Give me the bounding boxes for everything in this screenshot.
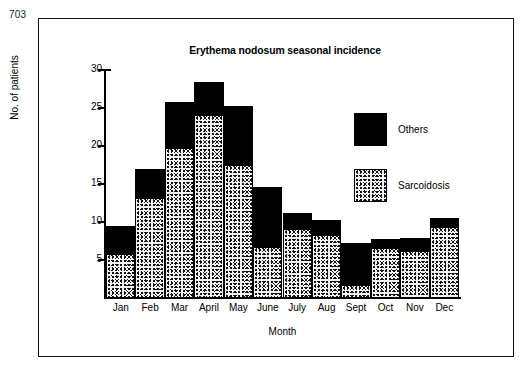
x-axis-title: Month xyxy=(106,325,459,338)
bar-segment-others xyxy=(106,226,135,254)
bar-dec[interactable] xyxy=(430,218,459,297)
bar-segment-sarcoidosis xyxy=(253,247,282,297)
bar-segment-others xyxy=(253,187,282,247)
x-tick-label-july: July xyxy=(283,301,312,315)
x-axis-tick-labels: JanFebMarAprilMayJuneJulyAugSeptOctNovDe… xyxy=(106,301,459,317)
x-tick-label-april: April xyxy=(194,301,223,315)
x-tick-label-mar: Mar xyxy=(165,301,194,315)
bar-segment-others xyxy=(135,169,164,199)
y-tick-label: 15 xyxy=(76,176,102,189)
bar-june[interactable] xyxy=(253,187,282,297)
bar-segment-sarcoidosis xyxy=(312,235,341,297)
bar-aug[interactable] xyxy=(312,219,341,297)
y-tick-label: 5 xyxy=(76,252,102,265)
bar-segment-sarcoidosis xyxy=(341,285,370,297)
legend-label: Sarcoidosis xyxy=(398,179,450,192)
bar-segment-sarcoidosis xyxy=(224,165,253,297)
x-tick-label-june: June xyxy=(253,301,282,315)
bar-segment-sarcoidosis xyxy=(106,254,135,297)
y-tick-label: 25 xyxy=(76,100,102,113)
bar-segment-others xyxy=(371,239,400,248)
page-canvas: 703 Erythema nodosum seasonal incidence … xyxy=(0,0,527,374)
y-tick-label: 10 xyxy=(76,214,102,227)
bar-july[interactable] xyxy=(283,213,312,297)
bar-jan[interactable] xyxy=(106,226,135,297)
bar-segment-sarcoidosis xyxy=(194,115,223,297)
bar-sept[interactable] xyxy=(341,243,370,297)
bar-may[interactable] xyxy=(224,106,253,297)
x-tick-label-nov: Nov xyxy=(400,301,429,315)
y-tick-label: 20 xyxy=(76,138,102,151)
bar-segment-sarcoidosis xyxy=(430,227,459,297)
x-tick-label-aug: Aug xyxy=(312,301,341,315)
bar-mar[interactable] xyxy=(165,102,194,297)
x-tick-label-dec: Dec xyxy=(430,301,459,315)
y-axis-title: No. of patients xyxy=(9,45,21,174)
bar-april[interactable] xyxy=(194,82,223,297)
bar-segment-others xyxy=(224,106,253,165)
bar-segment-others xyxy=(430,218,459,227)
bar-segment-sarcoidosis xyxy=(400,251,429,297)
x-tick-label-feb: Feb xyxy=(135,301,164,315)
legend-swatch-others xyxy=(354,113,387,146)
bar-segment-others xyxy=(283,213,312,228)
x-tick-label-jan: Jan xyxy=(106,301,135,315)
figure-frame: Erythema nodosum seasonal incidence No. … xyxy=(38,18,514,357)
y-tick-label: 30 xyxy=(76,62,102,75)
page-number: 703 xyxy=(9,9,26,21)
bar-segment-others xyxy=(165,102,194,148)
bar-oct[interactable] xyxy=(371,238,400,297)
bar-segment-sarcoidosis xyxy=(165,148,194,297)
bar-segment-sarcoidosis xyxy=(371,248,400,297)
x-tick-label-sept: Sept xyxy=(341,301,370,315)
legend-label: Others xyxy=(398,123,428,136)
x-tick-label-may: May xyxy=(224,301,253,315)
x-axis-line xyxy=(104,297,461,299)
plot-region: 51015202530 JanFebMarAprilMayJuneJulyAug… xyxy=(106,69,459,297)
x-tick-label-oct: Oct xyxy=(371,301,400,315)
bar-segment-others xyxy=(312,220,341,235)
bar-segment-sarcoidosis xyxy=(283,229,312,297)
bar-segment-others xyxy=(341,243,370,285)
legend-item-sarcoidosis[interactable]: Sarcoidosis xyxy=(354,169,450,202)
chart-title: Erythema nodosum seasonal incidence xyxy=(39,45,515,56)
bar-segment-others xyxy=(194,82,223,115)
bar-feb[interactable] xyxy=(135,169,164,297)
bar-segment-others xyxy=(400,238,429,250)
bar-segment-sarcoidosis xyxy=(135,198,164,297)
legend-swatch-sarcoidosis xyxy=(354,169,387,202)
bar-nov[interactable] xyxy=(400,238,429,297)
legend-item-others[interactable]: Others xyxy=(354,113,428,146)
chart-area: Erythema nodosum seasonal incidence No. … xyxy=(39,19,515,358)
